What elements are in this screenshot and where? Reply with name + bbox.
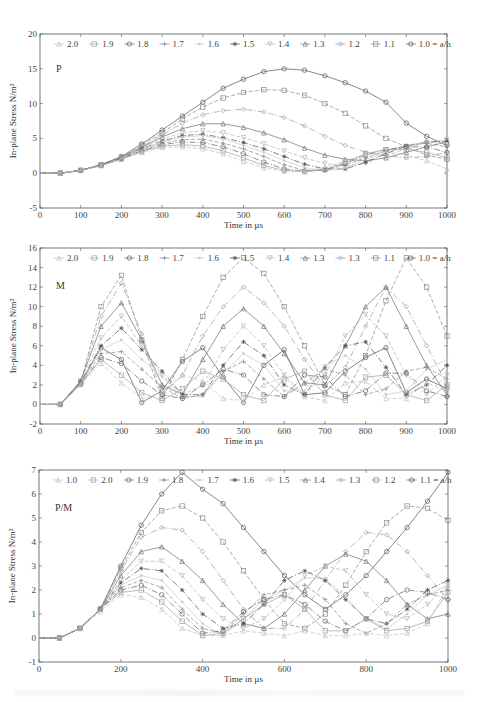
legend-entry: 1.5 xyxy=(243,39,255,49)
y-tick-label: 4 xyxy=(33,360,38,370)
legend-entry: 1.4 xyxy=(314,475,326,485)
chart-panel-m: 01002003004005006007008009001000-2024681… xyxy=(8,243,457,446)
y-tick-label: 1 xyxy=(32,609,37,619)
x-tick-label: 1000 xyxy=(438,210,457,220)
legend: 1.02.01.91.81.71.61.51.41.31.21.1 = a/h xyxy=(53,475,452,485)
x-tick-label: 1000 xyxy=(438,426,457,436)
panel-label: M xyxy=(56,280,65,291)
legend-entry: 1.1 xyxy=(384,39,395,49)
y-axis-label: In-plane Stress N/m² xyxy=(7,528,17,603)
x-axis-label: Time in µs xyxy=(224,220,263,230)
x-tick-label: 600 xyxy=(278,664,292,674)
figure-caption-blurred xyxy=(14,690,464,696)
x-tick-label: 700 xyxy=(318,426,332,436)
y-tick-label: 15 xyxy=(28,64,38,74)
x-tick-label: 200 xyxy=(114,664,128,674)
x-tick-label: 500 xyxy=(237,426,251,436)
y-tick-label: 6 xyxy=(33,341,38,351)
y-tick-label: 0 xyxy=(33,399,38,409)
legend: 2.01.91.81.71.61.51.41.31.21.11.0 = a/h xyxy=(54,39,451,49)
legend-entry: 1.1 xyxy=(384,253,395,263)
y-tick-label: 5 xyxy=(33,133,38,143)
panel-label: P xyxy=(56,63,62,74)
x-tick-label: 900 xyxy=(400,426,414,436)
y-tick-label: -1 xyxy=(29,657,37,667)
series-group xyxy=(39,470,450,640)
x-tick-label: 1000 xyxy=(439,664,458,674)
x-tick-label: 800 xyxy=(359,210,373,220)
x-tick-label: 800 xyxy=(359,664,373,674)
legend-entry: 1.4 xyxy=(278,253,290,263)
legend-entry: 1.7 xyxy=(173,253,185,263)
legend-entry: 1.5 xyxy=(243,253,255,263)
y-tick-label: 3 xyxy=(32,561,37,571)
x-tick-label: 800 xyxy=(359,426,373,436)
legend-entry: 1.3 xyxy=(349,475,361,485)
x-axis-label: Time in µs xyxy=(224,674,263,684)
x-tick-label: 400 xyxy=(196,426,210,436)
plot-frame xyxy=(40,34,447,208)
y-tick-label: 14 xyxy=(28,263,38,273)
y-tick-label: 12 xyxy=(28,282,37,292)
legend-entry: 1.5 xyxy=(278,475,290,485)
y-tick-label: 6 xyxy=(32,489,37,499)
y-tick-label: 2 xyxy=(33,380,38,390)
series-line-1.8 xyxy=(40,358,447,405)
legend-entry: 1.8 xyxy=(172,475,184,485)
x-tick-label: 100 xyxy=(74,426,88,436)
legend-entry: 1.6 xyxy=(243,475,255,485)
y-tick-label: 4 xyxy=(32,537,37,547)
x-tick-label: 400 xyxy=(196,664,210,674)
legend-entry: 1.6 xyxy=(208,253,220,263)
series-line-1.1 xyxy=(40,258,447,405)
series-group xyxy=(40,256,449,407)
x-tick-label: 0 xyxy=(38,426,43,436)
figure: 01002003004005006007008009001000-5051015… xyxy=(0,0,480,702)
legend-entry: 1.0 = a/h xyxy=(419,39,451,49)
legend-entry: 1.9 xyxy=(102,39,114,49)
chart-panel-p: 01002003004005006007008009001000-5051015… xyxy=(8,29,457,230)
y-tick-label: 10 xyxy=(28,99,38,109)
legend-entry: 1.3 xyxy=(313,39,325,49)
legend-entry: 2.0 xyxy=(67,253,79,263)
x-tick-label: 0 xyxy=(37,664,42,674)
legend-entry: 1.7 xyxy=(207,475,219,485)
y-tick-label: 7 xyxy=(32,465,37,475)
legend-entry: 2.0 xyxy=(67,39,79,49)
x-tick-label: 700 xyxy=(318,210,332,220)
y-tick-label: 0 xyxy=(32,633,37,643)
panel-label: P/M xyxy=(55,502,72,513)
y-tick-label: 5 xyxy=(32,513,37,523)
legend-entry: 1.2 xyxy=(348,39,359,49)
y-tick-label: 20 xyxy=(28,29,38,39)
legend-entry: 1.8 xyxy=(137,39,149,49)
y-tick-label: -2 xyxy=(30,419,38,429)
y-tick-label: 0 xyxy=(33,168,38,178)
y-tick-label: -5 xyxy=(30,203,38,213)
x-tick-label: 600 xyxy=(277,210,291,220)
chart-panel-p-m: 02004006008001000-101234567Time in µsIn-… xyxy=(7,465,458,684)
x-tick-label: 300 xyxy=(155,210,169,220)
legend-entry: 1.0 xyxy=(66,475,78,485)
legend-entry: 1.0 = a/h xyxy=(419,253,451,263)
x-tick-label: 100 xyxy=(74,210,88,220)
legend-entry: 1.2 xyxy=(384,475,395,485)
legend-entry: 1.3 xyxy=(348,253,360,263)
legend-entry: 1.4 xyxy=(278,39,290,49)
x-tick-label: 200 xyxy=(115,426,129,436)
x-tick-label: 400 xyxy=(196,210,210,220)
y-axis-label: In-plane Stress N/m² xyxy=(8,83,18,158)
legend-entry: 1.3 xyxy=(313,253,325,263)
y-axis-label: In-plane Stress N/m² xyxy=(8,298,18,373)
legend: 2.01.91.81.71.61.51.41.31.31.11.0 = a/h xyxy=(54,253,451,263)
legend-entry: 2.0 xyxy=(101,475,113,485)
x-tick-label: 0 xyxy=(38,210,43,220)
x-axis-label: Time in µs xyxy=(224,436,263,446)
y-tick-label: 10 xyxy=(28,302,38,312)
x-tick-label: 600 xyxy=(277,426,291,436)
x-tick-label: 900 xyxy=(400,210,414,220)
legend-entry: 1.8 xyxy=(137,253,149,263)
legend-entry: 1.1 = a/h xyxy=(420,475,452,485)
y-tick-label: 8 xyxy=(33,321,38,331)
x-tick-label: 200 xyxy=(115,210,129,220)
